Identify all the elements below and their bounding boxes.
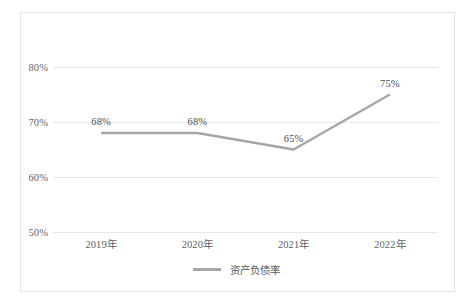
legend-line-swatch-asset-liability-ratio <box>193 268 221 271</box>
y-tick-label: 50% <box>28 227 48 238</box>
series-layer <box>53 40 438 240</box>
data-point-label: 68% <box>188 116 208 127</box>
chart-legend: 资产负债率 <box>0 262 473 277</box>
line-chart: 80%70%60%50% 2019年2020年2021年2022年 68%68%… <box>0 0 473 307</box>
y-tick-label: 70% <box>28 117 48 128</box>
y-axis: 80%70%60%50% <box>14 67 48 232</box>
y-tick-label: 80% <box>28 62 48 73</box>
data-point-label: 68% <box>91 116 111 127</box>
legend-label-asset-liability-ratio: 资产负债率 <box>230 262 281 277</box>
data-point-label: 75% <box>380 78 400 89</box>
series-line-0 <box>101 95 390 150</box>
data-point-label: 65% <box>284 133 304 144</box>
y-tick-label: 60% <box>28 172 48 183</box>
